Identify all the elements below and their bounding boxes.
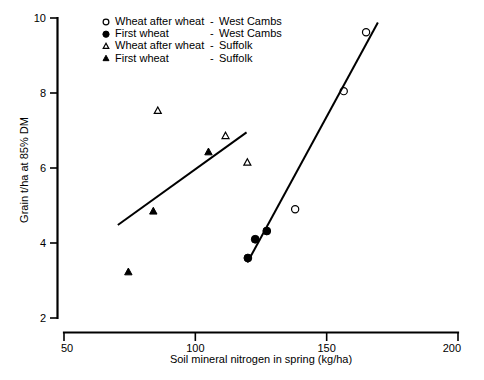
y-axis: 246810 Grain t/ha at 85% DM	[18, 12, 58, 324]
y-axis-tick-labels: 246810	[34, 12, 46, 324]
open-triangle-marker	[222, 132, 229, 138]
suffolk-regression-line	[118, 132, 247, 225]
open-triangle-marker	[244, 159, 251, 165]
filled-circle-marker	[251, 235, 259, 243]
filled-triangle-marker	[205, 148, 212, 155]
legend-entry-0: Wheat after wheat-West Cambs	[103, 15, 282, 27]
y-axis-ticks	[50, 18, 58, 318]
y-axis-title: Grain t/ha at 85% DM	[18, 117, 30, 223]
open-triangle-marker	[103, 43, 109, 48]
legend-entry-3: First wheat-Suffolk	[103, 52, 253, 64]
filled-circle-marker	[244, 254, 252, 262]
legend-dash-1: -	[210, 27, 214, 39]
west-cambs-regression-line	[247, 23, 378, 263]
y-tick-label-6: 6	[40, 162, 46, 174]
x-tick-label-50: 50	[61, 342, 73, 354]
legend: Wheat after wheat-West CambsFirst wheat-…	[103, 15, 282, 64]
legend-label-3: First wheat	[115, 52, 169, 64]
filled-circle-marker	[103, 31, 109, 37]
legend-site-3: Suffolk	[219, 52, 253, 64]
filled-triangle-marker	[103, 55, 109, 60]
open-circle-marker	[362, 29, 369, 36]
legend-label-1: First wheat	[115, 27, 169, 39]
filled-triangle-marker	[150, 207, 157, 214]
x-axis-title: Soil mineral nitrogen in spring (kg/ha)	[170, 353, 352, 365]
series-2	[154, 107, 251, 165]
legend-site-1: West Cambs	[219, 27, 282, 39]
legend-site-2: Suffolk	[219, 39, 253, 51]
legend-label-2: Wheat after wheat	[115, 39, 204, 51]
x-axis-ticks	[64, 333, 458, 342]
filled-triangle-marker	[125, 268, 132, 275]
scatter-plot-figure: 246810 Grain t/ha at 85% DM 50100150200 …	[0, 0, 484, 380]
legend-site-0: West Cambs	[219, 15, 282, 27]
open-circle-marker	[103, 19, 109, 25]
y-tick-label-8: 8	[40, 87, 46, 99]
y-tick-label-10: 10	[34, 12, 46, 24]
series-0	[292, 29, 370, 213]
x-tick-label-200: 200	[443, 342, 461, 354]
legend-dash-0: -	[210, 15, 214, 27]
legend-label-0: Wheat after wheat	[115, 15, 204, 27]
y-tick-label-2: 2	[40, 312, 46, 324]
legend-dash-3: -	[210, 52, 214, 64]
open-circle-marker	[292, 206, 299, 213]
data-point-markers	[125, 29, 370, 275]
y-tick-label-4: 4	[40, 237, 46, 249]
x-axis: 50100150200 Soil mineral nitrogen in spr…	[61, 333, 461, 366]
plot-canvas: 246810 Grain t/ha at 85% DM 50100150200 …	[0, 0, 484, 380]
open-triangle-marker	[154, 107, 161, 113]
legend-dash-2: -	[210, 39, 214, 51]
legend-entry-1: First wheat-West Cambs	[103, 27, 282, 39]
filled-circle-marker	[263, 227, 271, 235]
legend-entry-2: Wheat after wheat-Suffolk	[103, 39, 253, 51]
